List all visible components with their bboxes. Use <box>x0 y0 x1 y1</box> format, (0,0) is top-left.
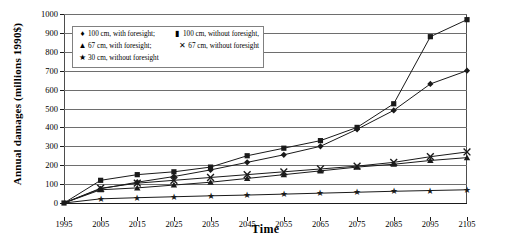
y-tick-mark-800 <box>60 52 64 53</box>
x-tick-label-2065: 2065 <box>300 220 340 229</box>
gridline-100 <box>64 184 467 185</box>
x-tick-label-2035: 2035 <box>191 220 231 229</box>
x-tick-mark-2075 <box>357 217 358 221</box>
y-tick-label-300: 300 <box>18 142 58 151</box>
star-marker-icon: ★ <box>77 54 88 62</box>
y-tick-mark-500 <box>60 109 64 110</box>
legend-entry-diamond: ♦100 cm, with foresight; <box>77 30 172 38</box>
y-tick-label-400: 400 <box>18 123 58 132</box>
x-tick-label-2045: 2045 <box>227 220 267 229</box>
diamond-marker-icon: ♦ <box>77 30 88 38</box>
y-tick-label-700: 700 <box>18 67 58 76</box>
gridline-0 <box>64 203 467 204</box>
y-tick-mark-100 <box>60 184 64 185</box>
x-tick-label-2015: 2015 <box>117 220 157 229</box>
cross-marker-icon: ✕ <box>177 42 188 50</box>
legend-entry-square: ▮100 cm, without foresight, <box>172 30 259 38</box>
x-tick-label-2095: 2095 <box>410 220 450 229</box>
square-marker-icon: ▮ <box>172 30 183 38</box>
y-tick-mark-600 <box>60 90 64 91</box>
y-tick-mark-0 <box>60 203 64 204</box>
x-tick-mark-2105 <box>467 217 468 221</box>
legend-label: 100 cm, with foresight; <box>88 30 155 38</box>
legend-entry-triangle: ▲67 cm, with foresight; <box>77 42 177 50</box>
x-tick-label-2105: 2105 <box>447 220 487 229</box>
legend-entry-cross: ✕67 cm, without foresight <box>177 42 259 50</box>
y-tick-mark-700 <box>60 71 64 72</box>
x-tick-label-2085: 2085 <box>374 220 414 229</box>
y-tick-label-100: 100 <box>18 180 58 189</box>
gridline-300 <box>64 146 467 147</box>
y-tick-label-200: 200 <box>18 161 58 170</box>
legend-entry-star: ★30 cm, without foresight <box>77 54 183 62</box>
y-tick-mark-200 <box>60 165 64 166</box>
y-tick-label-0: 0 <box>18 199 58 208</box>
x-tick-mark-2035 <box>211 217 212 221</box>
gridline-400 <box>64 127 467 128</box>
y-tick-mark-300 <box>60 146 64 147</box>
x-tick-mark-2085 <box>394 217 395 221</box>
legend-row-0: ♦100 cm, with foresight;▮100 cm, without… <box>77 30 259 42</box>
gridline-200 <box>64 165 467 166</box>
chart-figure: Annual damages (millions 1990$) Time 199… <box>0 0 509 245</box>
chart-legend: ♦100 cm, with foresight;▮100 cm, without… <box>72 26 264 68</box>
legend-row-1: ▲67 cm, with foresight;✕67 cm, without f… <box>77 42 259 54</box>
x-tick-label-2025: 2025 <box>154 220 194 229</box>
y-tick-mark-400 <box>60 127 64 128</box>
y-tick-mark-1000 <box>60 14 64 15</box>
gridline-700 <box>64 71 467 72</box>
x-tick-mark-2005 <box>101 217 102 221</box>
y-tick-mark-900 <box>60 33 64 34</box>
legend-row-2: ★30 cm, without foresight <box>77 54 259 66</box>
x-tick-label-2075: 2075 <box>337 220 377 229</box>
gridline-1000 <box>64 14 467 15</box>
x-tick-mark-2015 <box>137 217 138 221</box>
y-tick-label-500: 500 <box>18 105 58 114</box>
gridline-500 <box>64 109 467 110</box>
x-tick-mark-2095 <box>430 217 431 221</box>
x-tick-mark-2025 <box>174 217 175 221</box>
x-tick-label-1995: 1995 <box>44 220 84 229</box>
y-tick-label-600: 600 <box>18 86 58 95</box>
x-tick-mark-1995 <box>64 217 65 221</box>
legend-label: 30 cm, without foresight <box>88 54 159 62</box>
gridline-600 <box>64 90 467 91</box>
x-tick-label-2055: 2055 <box>264 220 304 229</box>
y-tick-label-800: 800 <box>18 48 58 57</box>
y-tick-label-1000: 1000 <box>18 10 58 19</box>
x-tick-mark-2045 <box>247 217 248 221</box>
y-tick-label-900: 900 <box>18 29 58 38</box>
legend-label: 67 cm, with foresight; <box>88 42 151 50</box>
legend-label: 100 cm, without foresight, <box>183 30 259 38</box>
triangle-marker-icon: ▲ <box>77 42 88 50</box>
x-tick-mark-2055 <box>284 217 285 221</box>
legend-label: 67 cm, without foresight <box>188 42 259 50</box>
x-tick-mark-2065 <box>320 217 321 221</box>
x-tick-label-2005: 2005 <box>81 220 121 229</box>
